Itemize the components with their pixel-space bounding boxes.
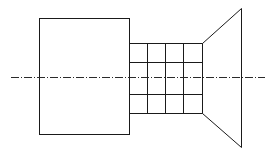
diagram-canvas xyxy=(0,0,268,154)
technical-drawing xyxy=(0,0,268,154)
left-block-rectangle xyxy=(40,19,130,135)
mesh-grid xyxy=(130,44,203,114)
